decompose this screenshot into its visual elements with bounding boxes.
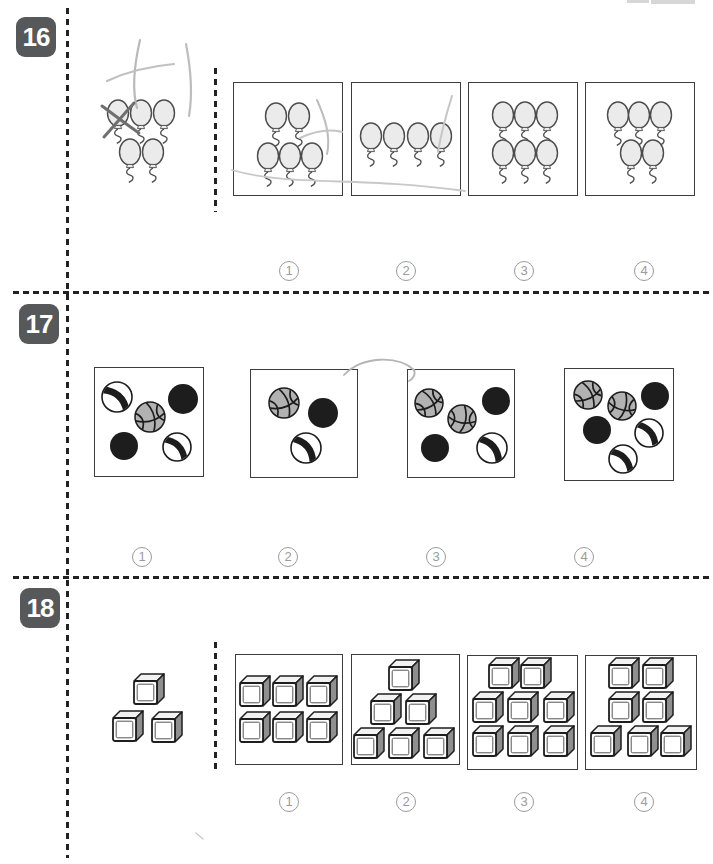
choice-box-2[interactable] <box>351 82 461 196</box>
choice-number-4[interactable]: 4 <box>634 792 654 812</box>
choice-box-4[interactable] <box>564 368 674 481</box>
choice-number-3[interactable]: 3 <box>514 792 534 812</box>
stimulus-cubes <box>105 670 190 755</box>
choice-box-3[interactable] <box>407 369 515 478</box>
worksheet-page: 16 1 2 3 4 17 1 2 3 4 18 <box>0 0 713 864</box>
choice-box-1[interactable] <box>233 82 343 196</box>
choice-number-label: 4 <box>580 549 587 564</box>
choice-number-label: 3 <box>520 794 527 809</box>
page-edge-artifact <box>651 0 695 4</box>
choice-box-3[interactable] <box>468 82 578 196</box>
divider-between-16-17 <box>13 291 709 294</box>
stimulus-divider-dashed-line <box>214 68 217 212</box>
choice-number-label: 4 <box>640 794 647 809</box>
choice-box-1[interactable] <box>235 654 343 765</box>
choice-number-label: 4 <box>640 263 647 278</box>
choice-number-label: 1 <box>285 263 292 278</box>
choice-box-2[interactable] <box>351 654 460 765</box>
choice-number-3[interactable]: 3 <box>514 261 534 281</box>
choice-number-label: 3 <box>432 549 439 564</box>
choice-number-4[interactable]: 4 <box>574 547 594 567</box>
choice-number-1[interactable]: 1 <box>279 792 299 812</box>
choice-number-1[interactable]: 1 <box>132 547 152 567</box>
choice-number-3[interactable]: 3 <box>426 547 446 567</box>
choice-number-label: 1 <box>138 549 145 564</box>
stimulus-balloons <box>95 88 225 188</box>
choice-box-4[interactable] <box>585 655 697 770</box>
choice-box-2[interactable] <box>250 369 358 478</box>
choice-number-label: 3 <box>520 263 527 278</box>
question-number-badge: 16 <box>16 17 56 57</box>
choice-number-1[interactable]: 1 <box>279 261 299 281</box>
choice-number-label: 1 <box>285 794 292 809</box>
choice-box-1[interactable] <box>94 367 204 477</box>
choice-number-2[interactable]: 2 <box>396 792 416 812</box>
choice-number-2[interactable]: 2 <box>278 547 298 567</box>
choice-number-label: 2 <box>402 263 409 278</box>
choice-box-4[interactable] <box>585 82 695 196</box>
choice-number-label: 2 <box>402 794 409 809</box>
left-margin-dashed-line <box>66 8 69 858</box>
choice-box-3[interactable] <box>467 655 578 770</box>
divider-between-17-18 <box>13 576 709 579</box>
choice-number-label: 2 <box>284 549 291 564</box>
question-number-badge: 17 <box>19 304 59 344</box>
stimulus-divider-dashed-line <box>214 642 217 774</box>
question-number-badge: 18 <box>20 588 60 628</box>
choice-number-4[interactable]: 4 <box>634 261 654 281</box>
page-edge-artifact <box>627 0 649 3</box>
choice-number-2[interactable]: 2 <box>396 261 416 281</box>
